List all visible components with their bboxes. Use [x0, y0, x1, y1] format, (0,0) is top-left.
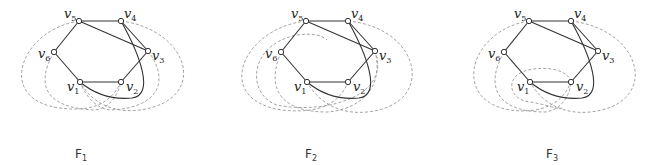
vertex-v1 [527, 79, 532, 84]
vertex-v1 [77, 79, 82, 84]
dashed-curves [22, 21, 184, 111]
label-v4: v4 [351, 6, 363, 23]
vertex-v2 [568, 79, 573, 84]
vertex-v1 [304, 79, 309, 84]
label-v3: v3 [379, 48, 391, 65]
vertex-v4 [345, 18, 350, 23]
vertex-v2 [345, 79, 350, 84]
caption-f2: F2 [305, 147, 317, 163]
figure-f2: v1 v2 v3 v4 v5 v6 F2 [242, 6, 412, 163]
edge-v5-v6 [504, 21, 529, 52]
edge-v5-v3 [306, 21, 375, 51]
dashed-curve-v5-v2 [474, 21, 571, 111]
dashed-curve-v4-v1 [80, 21, 184, 111]
label-v6: v6 [488, 46, 500, 63]
figure-f3: v1 v2 v3 v4 v5 v6 F3 [474, 6, 636, 163]
edge-v2-v3 [348, 51, 375, 82]
label-v3: v3 [602, 48, 614, 65]
vertex-v4 [118, 18, 123, 23]
graph-figures: v1 v2 v3 v4 v5 v6 F1 [0, 0, 656, 165]
edge-v5-v6 [54, 21, 79, 52]
vertex-v4 [568, 18, 573, 23]
edge-v6-v1 [54, 52, 80, 82]
vertex-v3 [372, 48, 377, 53]
vertex-v6 [501, 49, 506, 54]
label-v2: v2 [353, 79, 365, 96]
vertex-v3 [595, 48, 600, 53]
label-v2: v2 [126, 79, 138, 96]
edge-v2-v3 [121, 51, 148, 82]
label-v6: v6 [265, 46, 277, 63]
vertex-v2 [118, 79, 123, 84]
dashed-curves [474, 21, 636, 112]
caption-f3: F3 [546, 147, 558, 163]
vertex-v5 [76, 18, 81, 23]
label-v5: v5 [291, 6, 303, 23]
label-v5: v5 [514, 6, 526, 23]
edge-v6-v1 [504, 52, 530, 82]
label-v5: v5 [64, 6, 76, 23]
label-v4: v4 [574, 6, 586, 23]
dashed-curve-v3-v6 [257, 34, 378, 107]
dashed-curves [242, 21, 412, 112]
label-v6: v6 [38, 46, 50, 63]
vertex-v5 [303, 18, 308, 23]
figure-f1: v1 v2 v3 v4 v5 v6 F1 [22, 6, 184, 163]
vertex-v3 [145, 48, 150, 53]
label-v3: v3 [152, 48, 164, 65]
vertex-v5 [526, 18, 531, 23]
vertex-v6 [51, 49, 56, 54]
edge-v3-v4 [121, 21, 148, 51]
edge-v5-v3 [79, 21, 148, 51]
label-v2: v2 [576, 79, 588, 96]
caption-f1: F1 [75, 147, 87, 163]
label-v4: v4 [124, 6, 136, 23]
vertex-v6 [278, 49, 283, 54]
edge-v5-v3 [529, 21, 598, 51]
edge-v2-v3 [571, 51, 598, 82]
edge-v6-v1 [281, 52, 307, 82]
edge-v3-v4 [571, 21, 598, 51]
edge-v3-v4 [348, 21, 375, 51]
